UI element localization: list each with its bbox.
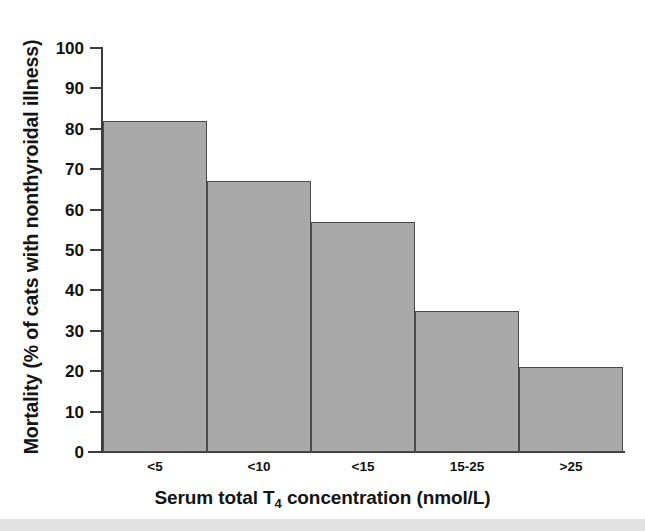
y-axis-tick-label: 60 (24, 202, 84, 219)
y-axis-tick-label: 20 (24, 363, 84, 380)
plot-area (103, 48, 623, 452)
y-axis-tick (90, 87, 101, 89)
x-axis-tick-label: <10 (207, 460, 311, 474)
x-axis-tick-label: <15 (311, 460, 415, 474)
y-axis-tick (90, 209, 101, 211)
y-axis-tick (90, 411, 101, 413)
y-axis-tick (90, 330, 101, 332)
y-axis-tick-label: 80 (24, 121, 84, 138)
y-axis-tick-label: 100 (24, 40, 84, 57)
y-axis-tick-label: 90 (24, 80, 84, 97)
bar (311, 222, 415, 452)
y-axis-tick (90, 249, 101, 251)
x-axis-tick-label: 15-25 (415, 460, 519, 474)
y-axis-tick (90, 289, 101, 291)
bar (207, 181, 311, 452)
x-axis-title-after: concentration (nmol/L) (282, 487, 491, 508)
y-axis-tick (90, 47, 101, 49)
y-axis-tick-label: 0 (24, 444, 84, 461)
y-axis-tick-label: 10 (24, 404, 84, 421)
y-axis-tick-label: 30 (24, 323, 84, 340)
y-axis-tick (90, 370, 101, 372)
y-axis-tick (90, 451, 101, 453)
bar (519, 367, 623, 452)
bar (103, 121, 207, 452)
y-axis-tick-label: 70 (24, 161, 84, 178)
x-axis-title-before: Serum total T (154, 487, 274, 508)
x-axis-tick-label: >25 (519, 460, 623, 474)
x-axis-tick-label: <5 (103, 460, 207, 474)
bar (415, 311, 519, 452)
bar-chart-figure: Mortality (% of cats with nonthyroidal i… (0, 0, 645, 531)
y-axis-tick-label: 50 (24, 242, 84, 259)
x-axis-title-subscript: 4 (275, 496, 282, 511)
y-axis-tick (90, 128, 101, 130)
y-axis-tick (90, 168, 101, 170)
scan-edge-band (0, 519, 645, 531)
y-axis-tick-label: 40 (24, 282, 84, 299)
x-axis-title: Serum total T4 concentration (nmol/L) (0, 487, 645, 509)
